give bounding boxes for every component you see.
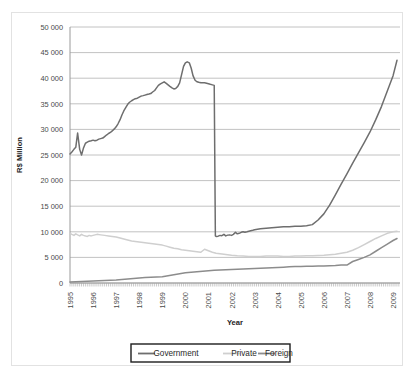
y-tick-label: 15 000 <box>40 202 63 211</box>
x-tick-label: 2007 <box>343 292 352 308</box>
legend-label-government: Government <box>153 349 199 358</box>
x-tick-label: 1999 <box>158 292 167 308</box>
x-tick-label: 1998 <box>135 292 144 308</box>
x-axis-minor-ticks <box>70 283 399 287</box>
y-gridlines <box>70 27 400 283</box>
x-tick-label: 2008 <box>366 292 375 308</box>
x-tick-label: 2005 <box>297 292 306 308</box>
y-tick-label: 10 000 <box>40 228 63 237</box>
y-tick-label: 35 000 <box>40 100 63 109</box>
chart-legend: GovernmentPrivateForeign <box>131 344 293 362</box>
chart-container: 05 00010 00015 00020 00025 00030 00035 0… <box>0 0 416 379</box>
y-tick-label: 45 000 <box>40 48 63 57</box>
x-tick-label: 1996 <box>89 292 98 308</box>
x-tick-label: 2006 <box>320 292 329 308</box>
legend-label-private: Private <box>231 349 257 358</box>
x-tick-label: 1995 <box>66 292 75 308</box>
x-tick-label: 2009 <box>389 292 398 308</box>
y-tick-label: 30 000 <box>40 125 63 134</box>
x-tick-label: 1997 <box>112 292 121 308</box>
y-tick-label: 0 <box>59 279 63 288</box>
x-tick-label: 2004 <box>274 292 283 308</box>
data-series-lines <box>70 60 397 282</box>
y-axis-title: R$ Million <box>15 137 24 173</box>
x-axis-tick-labels: 1995199619971998199920002001200220032004… <box>66 292 398 308</box>
legend-label-foreign: Foreign <box>265 349 293 358</box>
y-tick-label: 5 000 <box>45 253 64 262</box>
series-line-foreign <box>70 238 397 282</box>
y-tick-label: 25 000 <box>40 151 63 160</box>
y-tick-label: 20 000 <box>40 176 63 185</box>
x-tick-label: 2002 <box>228 292 237 308</box>
y-axis-tick-labels: 05 00010 00015 00020 00025 00030 00035 0… <box>40 23 63 288</box>
x-axis-title: Year <box>227 318 243 327</box>
x-tick-label: 2001 <box>204 292 213 308</box>
series-line-government <box>70 60 397 236</box>
chart-plot-svg: 05 00010 00015 00020 00025 00030 00035 0… <box>0 0 416 379</box>
x-tick-label: 2003 <box>251 292 260 308</box>
x-tick-label: 2000 <box>181 292 190 308</box>
y-tick-label: 50 000 <box>40 23 63 32</box>
y-tick-label: 40 000 <box>40 74 63 83</box>
